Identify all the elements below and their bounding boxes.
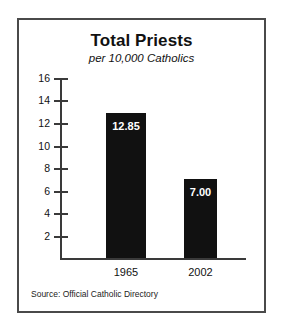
- y-tick-12: [54, 123, 68, 125]
- y-tick-label-8: 8: [19, 163, 50, 174]
- bar-value-1965: 12.85: [106, 120, 146, 132]
- bar-2002: 7.00: [184, 179, 217, 258]
- y-tick-label-2: 2: [19, 231, 50, 242]
- y-tick-14: [54, 100, 68, 102]
- y-tick-4: [54, 213, 68, 215]
- y-tick-16: [54, 78, 68, 80]
- x-tick-label-2002: 2002: [184, 266, 217, 278]
- x-tick-label-1965: 1965: [106, 266, 146, 278]
- y-tick-label-16: 16: [19, 73, 50, 84]
- y-tick-label-10: 10: [19, 141, 50, 152]
- source-note: Source: Official Catholic Directory: [31, 289, 158, 299]
- bar-1965: 12.85: [106, 113, 146, 258]
- y-tick-label-4: 4: [19, 208, 50, 219]
- y-tick-10: [54, 146, 68, 148]
- y-tick-label-6: 6: [19, 186, 50, 197]
- y-tick-6: [54, 191, 68, 193]
- y-tick-2: [54, 236, 68, 238]
- bar-value-2002: 7.00: [184, 186, 217, 198]
- plot-area: 16 14 12 10 8 6 4 2 12.85 7.00 1965: [19, 20, 264, 311]
- y-axis-line: [60, 80, 62, 260]
- chart-frame: Total Priests per 10,000 Catholics 16 14…: [17, 18, 266, 313]
- y-tick-8: [54, 168, 68, 170]
- x-axis-line: [60, 258, 246, 260]
- y-tick-label-14: 14: [19, 95, 50, 106]
- y-tick-label-12: 12: [19, 118, 50, 129]
